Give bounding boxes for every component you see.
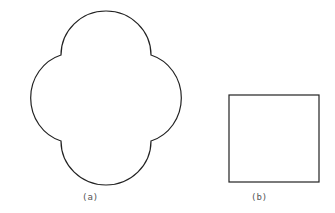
square-shape <box>229 95 319 182</box>
diagram-canvas: (a) (b) <box>0 0 335 213</box>
figure-a-label: (a) <box>82 192 98 202</box>
figure-b-label: (b) <box>251 192 267 202</box>
figure-a: (a) <box>31 11 182 202</box>
figure-b: (b) <box>229 95 319 202</box>
quatrefoil-shape <box>31 11 182 185</box>
